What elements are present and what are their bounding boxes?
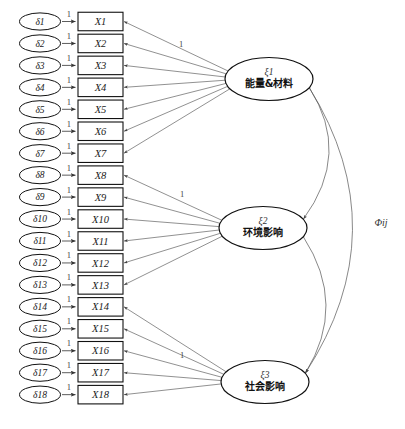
error-label-d2: δ2 [35, 39, 44, 49]
covariance-curve-xi2-xi3 [303, 237, 326, 373]
fixed-loading-label-xi3: 1 [180, 350, 184, 360]
latent-node-xi3[interactable]: ξ3社会影响 [221, 361, 309, 404]
latent-node-xi1[interactable]: ξ1能量&材料 [225, 58, 313, 101]
error-path-label-d15: 1 [67, 316, 71, 326]
fixed-loading-label-xi1: 1 [179, 39, 183, 49]
indicator-node[interactable]: X6 [78, 122, 123, 141]
loading-edge-xi1-to-X7 [124, 89, 230, 153]
error-label-d13: δ13 [33, 280, 47, 290]
error-node[interactable]: δ11 [20, 232, 61, 249]
indicator-label-X14: X14 [91, 301, 110, 312]
indicator-label-X5: X5 [94, 104, 107, 115]
error-node[interactable]: δ10 [20, 210, 61, 227]
error-node[interactable]: δ5 [20, 101, 61, 118]
loading-edge-xi2-to-X12 [124, 233, 221, 263]
indicator-label-X3: X3 [94, 60, 107, 71]
error-node[interactable]: δ7 [20, 145, 61, 162]
indicator-node[interactable]: X13 [78, 276, 123, 295]
indicator-node[interactable]: X11 [78, 232, 123, 251]
error-ellipses-layer: δ1δ2δ3δ4δ5δ6δ7δ8δ9δ10δ11δ12δ13δ14δ15δ16δ… [20, 13, 61, 403]
error-label-d10: δ10 [33, 214, 47, 224]
error-node[interactable]: δ13 [20, 276, 61, 293]
error-node[interactable]: δ2 [20, 35, 61, 52]
error-label-d3: δ3 [35, 61, 44, 71]
loading-edge-xi3-to-X16 [124, 351, 222, 378]
loading-edge-xi2-to-X9 [124, 197, 220, 223]
error-label-d1: δ1 [35, 17, 44, 27]
error-label-d15: δ15 [33, 324, 47, 334]
latent-node-xi2[interactable]: ξ2环境影响 [219, 207, 307, 250]
error-node[interactable]: δ3 [20, 57, 61, 74]
indicator-label-X17: X17 [91, 367, 110, 378]
error-node[interactable]: δ9 [20, 189, 61, 206]
error-node[interactable]: δ17 [20, 364, 61, 381]
indicator-node[interactable]: X8 [78, 166, 123, 185]
indicator-node[interactable]: X14 [78, 298, 123, 317]
loading-edge-xi3-to-X14 [124, 307, 226, 372]
error-path-label-d5: 1 [67, 97, 71, 107]
covariance-curve-xi1-xi2 [303, 88, 329, 219]
error-path-label-d12: 1 [67, 250, 71, 260]
error-node[interactable]: δ6 [20, 123, 61, 140]
error-label-d18: δ18 [33, 390, 47, 400]
error-path-label-d18: 1 [67, 382, 71, 392]
latent-ellipses-layer: ξ1能量&材料ξ2环境影响ξ3社会影响 [219, 58, 313, 404]
error-label-d14: δ14 [33, 302, 47, 312]
loading-edge-xi1-to-X2 [124, 43, 226, 73]
indicator-node[interactable]: X1 [78, 12, 123, 31]
error-node[interactable]: δ18 [20, 386, 61, 403]
indicator-node[interactable]: X3 [78, 56, 123, 75]
indicator-label-X1: X1 [94, 16, 107, 27]
error-path-label-d1: 1 [67, 9, 71, 19]
error-node[interactable]: δ1 [20, 13, 61, 30]
error-path-label-d7: 1 [67, 141, 71, 151]
indicator-boxes-layer: X1X2X3X4X5X6X7X8X9X10X11X12X13X14X15X16X… [78, 12, 123, 404]
error-node[interactable]: δ14 [20, 298, 61, 315]
error-path-label-d17: 1 [67, 360, 71, 370]
indicator-label-X18: X18 [91, 389, 110, 400]
error-path-label-d8: 1 [67, 163, 71, 173]
loading-edge-xi1-to-X1 [124, 22, 228, 72]
indicator-label-X13: X13 [91, 280, 109, 291]
indicator-node[interactable]: X7 [78, 144, 123, 163]
error-label-d16: δ16 [33, 346, 47, 356]
error-node[interactable]: δ12 [20, 254, 61, 271]
indicator-node[interactable]: X4 [78, 78, 123, 97]
error-path-label-d4: 1 [67, 75, 71, 85]
latent-name-xi3: 社会影响 [244, 380, 285, 392]
indicator-label-X6: X6 [94, 126, 107, 137]
error-node[interactable]: δ4 [20, 79, 61, 96]
loading-edge-xi3-to-X18 [124, 384, 221, 395]
loading-edge-xi3-to-X17 [124, 373, 221, 381]
indicator-label-X7: X7 [94, 148, 107, 159]
fixed-loading-label-xi2: 1 [180, 189, 184, 199]
indicator-node[interactable]: X2 [78, 34, 123, 53]
error-node[interactable]: δ16 [20, 342, 61, 359]
covariance-curves-layer [303, 88, 352, 373]
indicator-label-X11: X11 [91, 236, 108, 247]
error-label-d4: δ4 [35, 83, 44, 93]
indicator-node[interactable]: X15 [78, 320, 123, 339]
error-label-d9: δ9 [35, 192, 44, 202]
indicator-label-X9: X9 [94, 192, 107, 203]
indicator-node[interactable]: X5 [78, 100, 123, 119]
error-path-label-d10: 1 [67, 207, 71, 217]
loading-edge-xi2-to-X10 [124, 219, 219, 227]
indicator-node[interactable]: X9 [78, 188, 123, 207]
sem-diagram-canvas: X1X2X3X4X5X6X7X8X9X10X11X12X13X14X15X16X… [0, 0, 405, 429]
indicator-label-X16: X16 [91, 345, 110, 356]
error-node[interactable]: δ15 [20, 320, 61, 337]
indicator-node[interactable]: X17 [78, 363, 123, 382]
error-label-d12: δ12 [33, 258, 47, 268]
loading-edge-xi2-to-X13 [124, 236, 222, 285]
error-label-d8: δ8 [35, 170, 44, 180]
indicator-node[interactable]: X18 [78, 385, 123, 404]
error-node[interactable]: δ8 [20, 167, 61, 184]
indicator-node[interactable]: X12 [78, 254, 123, 273]
indicator-node[interactable]: X10 [78, 210, 123, 229]
error-path-label-d2: 1 [67, 31, 71, 41]
indicator-label-X10: X10 [91, 214, 110, 225]
indicator-node[interactable]: X16 [78, 342, 123, 361]
error-path-label-d9: 1 [67, 185, 71, 195]
indicator-label-X4: X4 [94, 82, 107, 93]
